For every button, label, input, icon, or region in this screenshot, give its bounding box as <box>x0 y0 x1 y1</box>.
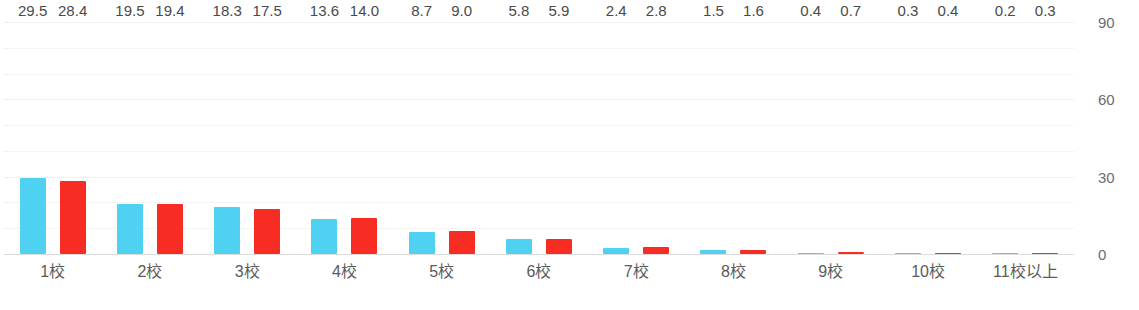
bar-group: 5.85.9 <box>490 22 587 254</box>
bar-series-blue[interactable]: 5.8 <box>506 239 532 254</box>
bar-group: 29.528.4 <box>4 22 101 254</box>
x-axis-baseline <box>4 254 1074 255</box>
category-label-4: 4校 <box>296 262 393 281</box>
bar-wrapper: 19.4 <box>157 22 183 254</box>
category-label-7: 7校 <box>588 262 685 281</box>
bar-group: 19.519.4 <box>101 22 198 254</box>
bar-wrapper: 8.7 <box>409 22 435 254</box>
bar-value-label: 9.0 <box>451 3 472 18</box>
category-label-1: 1校 <box>4 262 101 281</box>
bar-wrapper: 2.4 <box>603 22 629 254</box>
category-label-9: 9校 <box>782 262 879 281</box>
bar-value-label: 19.4 <box>155 3 184 18</box>
bar-wrapper: 0.4 <box>798 22 824 254</box>
category-label-5: 5校 <box>393 262 490 281</box>
bar-series-blue[interactable]: 2.4 <box>603 248 629 254</box>
category-label-6: 6校 <box>490 262 587 281</box>
bar-series-blue[interactable]: 0.4 <box>798 253 824 255</box>
bar-series-blue[interactable]: 1.5 <box>700 250 726 254</box>
bar-chart: 0306090 29.528.419.519.418.317.513.614.0… <box>0 0 1139 310</box>
bar-wrapper: 1.5 <box>700 22 726 254</box>
bar-wrapper: 18.3 <box>214 22 240 254</box>
bar-group: 18.317.5 <box>199 22 296 254</box>
bar-value-label: 8.7 <box>411 3 432 18</box>
bars-layer: 29.528.419.519.418.317.513.614.08.79.05.… <box>4 22 1074 254</box>
bar-series-red[interactable]: 0.4 <box>935 253 961 255</box>
bar-group: 13.614.0 <box>296 22 393 254</box>
bar-series-red[interactable]: 9.0 <box>449 231 475 254</box>
bar-value-label: 0.4 <box>938 3 959 18</box>
bar-wrapper: 13.6 <box>311 22 337 254</box>
bar-wrapper: 1.6 <box>740 22 766 254</box>
bar-wrapper: 0.3 <box>1032 22 1058 254</box>
bar-value-label: 2.4 <box>606 3 627 18</box>
bar-wrapper: 19.5 <box>117 22 143 254</box>
bar-series-red[interactable]: 17.5 <box>254 209 280 254</box>
category-label-2: 2校 <box>101 262 198 281</box>
bar-group: 1.51.6 <box>685 22 782 254</box>
bar-group: 8.79.0 <box>393 22 490 254</box>
bar-series-blue[interactable]: 0.3 <box>895 253 921 255</box>
bar-value-label: 19.5 <box>115 3 144 18</box>
bar-group: 0.40.7 <box>782 22 879 254</box>
category-label-11: 11校以上 <box>977 262 1074 281</box>
bar-series-blue[interactable]: 13.6 <box>311 219 337 254</box>
bar-series-red[interactable]: 28.4 <box>60 181 86 254</box>
bar-series-red[interactable]: 0.7 <box>838 252 864 254</box>
bar-wrapper: 5.9 <box>546 22 572 254</box>
bar-wrapper: 0.3 <box>895 22 921 254</box>
bar-value-label: 0.4 <box>800 3 821 18</box>
bar-wrapper: 0.4 <box>935 22 961 254</box>
bar-value-label: 1.5 <box>703 3 724 18</box>
bar-series-red[interactable]: 14.0 <box>351 218 377 254</box>
bar-value-label: 17.5 <box>253 3 282 18</box>
bar-value-label: 0.3 <box>1035 3 1056 18</box>
bar-series-red[interactable]: 5.9 <box>546 239 572 254</box>
y-tick-label: 30 <box>1098 169 1115 184</box>
bar-wrapper: 0.2 <box>992 22 1018 254</box>
bar-value-label: 18.3 <box>213 3 242 18</box>
bar-wrapper: 5.8 <box>506 22 532 254</box>
bar-wrapper: 28.4 <box>60 22 86 254</box>
bar-series-blue[interactable]: 8.7 <box>409 232 435 254</box>
bar-series-red[interactable]: 19.4 <box>157 204 183 254</box>
bar-wrapper: 29.5 <box>20 22 46 254</box>
bar-group: 0.30.4 <box>879 22 976 254</box>
y-tick-label: 90 <box>1098 15 1115 30</box>
bar-value-label: 2.8 <box>646 3 667 18</box>
category-label-3: 3校 <box>199 262 296 281</box>
bar-value-label: 13.6 <box>310 3 339 18</box>
bar-value-label: 14.0 <box>350 3 379 18</box>
bar-group: 0.20.3 <box>977 22 1074 254</box>
bar-wrapper: 9.0 <box>449 22 475 254</box>
bar-series-red[interactable]: 0.3 <box>1032 253 1058 255</box>
y-tick-label: 60 <box>1098 92 1115 107</box>
x-axis-category-labels: 1校2校3校4校5校6校7校8校9校10校11校以上 <box>4 262 1074 281</box>
bar-group: 2.42.8 <box>588 22 685 254</box>
bar-wrapper: 0.7 <box>838 22 864 254</box>
bar-wrapper: 2.8 <box>643 22 669 254</box>
bar-series-red[interactable]: 1.6 <box>740 250 766 254</box>
bar-wrapper: 17.5 <box>254 22 280 254</box>
bar-value-label: 0.3 <box>898 3 919 18</box>
category-label-10: 10校 <box>879 262 976 281</box>
category-label-8: 8校 <box>685 262 782 281</box>
bar-value-label: 1.6 <box>743 3 764 18</box>
bar-value-label: 5.8 <box>509 3 530 18</box>
bar-wrapper: 14.0 <box>351 22 377 254</box>
bar-series-blue[interactable]: 18.3 <box>214 207 240 254</box>
bar-value-label: 29.5 <box>18 3 47 18</box>
bar-series-blue[interactable]: 0.2 <box>992 253 1018 255</box>
bar-value-label: 28.4 <box>58 3 87 18</box>
bar-series-blue[interactable]: 29.5 <box>20 178 46 254</box>
bar-value-label: 0.2 <box>995 3 1016 18</box>
bar-series-red[interactable]: 2.8 <box>643 247 669 254</box>
y-tick-label: 0 <box>1098 247 1106 262</box>
bar-value-label: 0.7 <box>840 3 861 18</box>
bar-series-blue[interactable]: 19.5 <box>117 204 143 254</box>
bar-value-label: 5.9 <box>549 3 570 18</box>
